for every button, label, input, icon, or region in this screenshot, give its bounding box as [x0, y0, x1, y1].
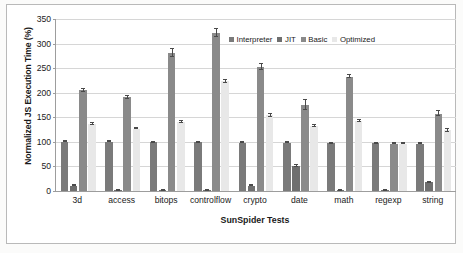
error-bar-cap [134, 128, 138, 129]
chart-frame: Normalized JS Execution Time (%) 0501001… [6, 4, 456, 244]
error-bar-cap [338, 190, 342, 191]
x-tick-label-math: math [334, 195, 353, 205]
bar-basic-bitops [168, 53, 176, 191]
error-bar-cap [90, 124, 94, 125]
error-bar-cap [294, 166, 298, 167]
y-tick-label: 350 [25, 14, 51, 24]
x-axis-tick-labels: 3daccessbitopscontrolflowcryptodatemathr… [55, 195, 455, 211]
error-bar-cap [214, 28, 218, 29]
chart-figure: Normalized JS Execution Time (%) 0501001… [0, 0, 463, 253]
error-bar-cap [436, 110, 440, 111]
bar-interpreter-crypto [239, 143, 247, 191]
error-bar-cap [294, 164, 298, 165]
legend-swatch-icon [301, 37, 306, 42]
error-bar-cap [303, 109, 307, 110]
bar-basic-string [435, 114, 443, 191]
error-bar-cap [249, 185, 253, 186]
bar-jit-string [425, 182, 433, 191]
legend-label: JIT [285, 36, 296, 44]
bar-interpreter-math [327, 143, 335, 191]
legend-entry-interpreter: Interpreter [229, 36, 272, 44]
x-tick-label-string: string [422, 195, 443, 205]
error-bar-cap [107, 141, 111, 142]
chart-legend: InterpreterJITBasicOptimized [229, 36, 375, 44]
bar-optimized-regexp [399, 144, 407, 191]
error-bar-cap [63, 141, 67, 142]
error-bar-cap [374, 143, 378, 144]
error-bar-cap [418, 143, 422, 144]
bar-optimized-crypto [266, 115, 274, 191]
x-tick-label-bitops: bitops [155, 195, 178, 205]
error-bar-cap [161, 190, 165, 191]
legend-label: Basic [308, 36, 327, 44]
error-bar-cap [179, 120, 183, 121]
bar-optimized-date [310, 126, 318, 191]
bar-optimized-access [133, 129, 141, 191]
bar-basic-crypto [257, 67, 265, 191]
bar-optimized-bitops [177, 122, 185, 191]
error-bar-cap [383, 190, 387, 191]
bar-interpreter-bitops [150, 142, 158, 191]
bar-group [327, 19, 362, 191]
y-tick-label: 300 [25, 39, 51, 49]
bar-optimized-controlflow [221, 81, 229, 191]
legend-entry-jit: JIT [277, 36, 295, 44]
error-bar-cap [125, 95, 129, 96]
bar-jit-3d [70, 186, 78, 191]
bar-interpreter-regexp [372, 143, 380, 191]
bar-basic-3d [79, 90, 87, 191]
error-bar-cap [357, 121, 361, 122]
bar-interpreter-date [283, 143, 291, 191]
error-bar-cap [445, 131, 449, 132]
x-tick-label-regexp: regexp [375, 195, 401, 205]
error-bar-cap [223, 79, 227, 80]
legend-swatch-icon [229, 37, 234, 42]
bar-group [105, 19, 140, 191]
bar-group [416, 19, 451, 191]
error-bar-cap [312, 126, 316, 127]
legend-entry-optimized: Optimized [332, 36, 375, 44]
error-bar-cap [427, 182, 431, 183]
error-bar-cap [125, 98, 129, 99]
bar-group [283, 19, 318, 191]
y-axis-tick-labels: 050100150200250300350 [25, 19, 51, 191]
error-bar-cap [357, 119, 361, 120]
error-bar-cap [81, 91, 85, 92]
error-bar-cap [259, 63, 263, 64]
bar-jit-crypto [248, 186, 256, 191]
bar-basic-regexp [390, 144, 398, 191]
bar-interpreter-access [105, 142, 113, 191]
error-bar-cap [151, 142, 155, 143]
error-bar-cap [81, 88, 85, 89]
error-bar-cap [445, 128, 449, 129]
error-bar-cap [392, 143, 396, 144]
bar-group [239, 19, 274, 191]
error-bar-cap [436, 115, 440, 116]
y-tick-label: 150 [25, 112, 51, 122]
error-bar-cap [268, 113, 272, 114]
y-tick-label: 200 [25, 88, 51, 98]
bars-layer [56, 19, 456, 191]
error-bar-cap [196, 142, 200, 143]
bar-interpreter-controlflow [194, 142, 202, 191]
legend-entry-basic: Basic [301, 36, 328, 44]
error-bar-cap [179, 122, 183, 123]
error-bar-cap [329, 143, 333, 144]
x-axis-title: SunSpider Tests [55, 215, 455, 225]
bar-interpreter-string [416, 144, 424, 191]
y-tick-label: 250 [25, 63, 51, 73]
legend-label: Interpreter [237, 36, 273, 44]
legend-swatch-icon [277, 37, 282, 42]
error-bar-cap [205, 190, 209, 191]
bar-basic-access [123, 97, 131, 191]
bar-optimized-3d [88, 124, 96, 191]
x-tick-label-3d: 3d [72, 195, 82, 205]
error-bar-cap [347, 77, 351, 78]
error-bar-cap [347, 74, 351, 75]
error-bar-cap [214, 36, 218, 37]
error-bar-cap [240, 142, 244, 143]
bar-basic-date [301, 105, 309, 191]
x-tick-label-date: date [291, 195, 308, 205]
error-bar-cap [223, 82, 227, 83]
error-bar-cap [116, 190, 120, 191]
